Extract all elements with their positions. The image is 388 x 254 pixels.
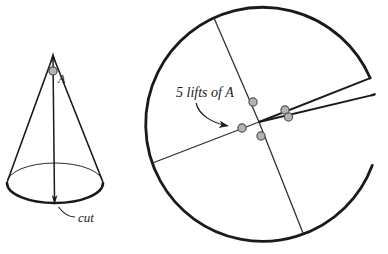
disk-outer-arc	[146, 7, 373, 241]
cone-point-a-label: A	[57, 72, 66, 86]
cone-cut-line	[53, 59, 55, 199]
cut-label: cut	[78, 210, 94, 225]
cone-left-slant	[8, 56, 54, 181]
figure-canvas: A cut 5 lifts of A	[0, 0, 388, 254]
lifts-label: 5 lifts of A	[176, 85, 234, 100]
lift-point-dot	[249, 98, 257, 106]
cone-point-a-dot	[49, 67, 57, 75]
disk-radius-lower-right	[259, 122, 303, 233]
disk-notch-rim-connector	[372, 94, 374, 95]
lift-point-dot	[284, 113, 292, 121]
cut-leader-line	[59, 207, 76, 217]
cone-group	[7, 52, 103, 217]
lifts-arrow-leader	[196, 103, 228, 126]
lift-point-dot	[257, 132, 265, 140]
lift-point-dot	[238, 124, 246, 132]
disk-group	[146, 7, 375, 241]
diagram-svg: A cut 5 lifts of A	[0, 0, 388, 254]
